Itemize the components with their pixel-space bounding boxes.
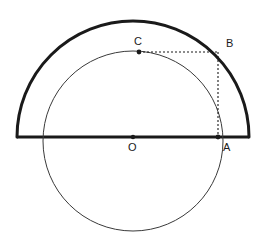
geometry-figure: O A B C (0, 0, 272, 242)
point-c-label: C (134, 36, 142, 47)
semicircle-arc (17, 21, 249, 137)
point-b-label: B (226, 38, 234, 49)
point-a-label: A (223, 142, 231, 153)
point-a-marker (216, 135, 221, 140)
point-o-marker (131, 135, 135, 139)
point-c-marker (137, 50, 142, 55)
point-o-label: O (128, 142, 137, 153)
